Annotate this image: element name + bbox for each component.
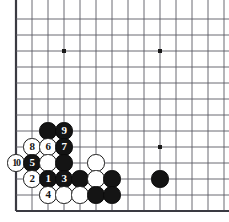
stone-b-c4r10[interactable] (71, 170, 88, 187)
stone-b-c3r10[interactable]: 3 (55, 170, 72, 187)
stone-w-c2r9[interactable] (39, 154, 56, 171)
stone-b-c3r7[interactable]: 9 (55, 122, 72, 139)
move-number-label: 4 (45, 189, 50, 200)
move-number-label: 6 (45, 141, 50, 152)
stone-w-c1r10[interactable]: 2 (23, 170, 40, 187)
move-number-label: 2 (29, 173, 34, 184)
stone-b-c6r10[interactable] (103, 170, 120, 187)
star-point-upper-right (158, 49, 162, 53)
stone-b-c3r8[interactable]: 7 (55, 138, 72, 155)
stone-b-c1r9[interactable]: 5 (23, 154, 40, 171)
stone-w-c0r9[interactable]: 10 (7, 154, 24, 171)
move-number-label: 7 (61, 141, 66, 152)
stone-b-c2r10[interactable]: 1 (39, 170, 56, 187)
move-number-label: 5 (29, 157, 34, 168)
star-point-lower-right (158, 145, 162, 149)
stone-b-c9r10[interactable] (151, 170, 168, 187)
stone-w-c5r10[interactable] (87, 170, 104, 187)
move-number-label: 9 (61, 125, 66, 136)
stone-w-c5r9[interactable] (87, 154, 104, 171)
move-number-label: 10 (12, 158, 20, 168)
stone-w-c2r8[interactable]: 6 (39, 138, 56, 155)
move-number-label: 3 (61, 173, 66, 184)
stone-w-c1r8[interactable]: 8 (23, 138, 40, 155)
stone-b-c5r11[interactable] (87, 186, 104, 203)
star-point-upper-left (62, 49, 66, 53)
move-number-label: 8 (29, 141, 34, 152)
go-board-diagram: 98671052134 (0, 0, 229, 222)
move-number-label: 1 (45, 173, 50, 184)
stone-w-c2r11[interactable]: 4 (39, 186, 56, 203)
stone-w-c3r11[interactable] (55, 186, 72, 203)
stone-b-c3r9[interactable] (55, 154, 72, 171)
stone-b-c2r7[interactable] (39, 122, 56, 139)
stone-b-c6r11[interactable] (103, 186, 120, 203)
stone-w-c4r11[interactable] (71, 186, 88, 203)
